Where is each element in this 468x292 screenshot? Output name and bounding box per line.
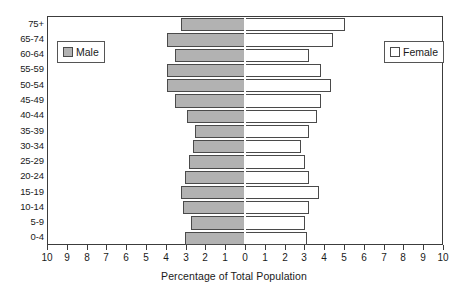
bar-row bbox=[48, 124, 442, 139]
x-axis-tick bbox=[67, 245, 68, 250]
bar-female bbox=[246, 171, 309, 184]
bar-row bbox=[48, 109, 442, 124]
legend-swatch-female-icon bbox=[390, 47, 400, 57]
bar-male bbox=[185, 232, 244, 245]
bar-male bbox=[193, 140, 244, 153]
x-axis-tick-label: 10 bbox=[431, 252, 455, 264]
bar-female bbox=[246, 140, 301, 153]
x-axis-tick bbox=[225, 245, 226, 250]
bar-female bbox=[246, 49, 309, 62]
x-axis-tick bbox=[87, 245, 88, 250]
x-axis-tick bbox=[146, 245, 147, 250]
bar-female bbox=[246, 155, 305, 168]
bar-female bbox=[246, 110, 317, 123]
x-axis-tick bbox=[324, 245, 325, 250]
bar-row bbox=[48, 32, 442, 47]
x-axis-tick bbox=[423, 245, 424, 250]
y-axis-tick-label: 30-34 bbox=[20, 141, 44, 151]
bar-female bbox=[246, 33, 333, 46]
y-axis-tick-label: 65-74 bbox=[20, 34, 44, 44]
x-axis-tick bbox=[364, 245, 365, 250]
bar-male bbox=[191, 216, 244, 229]
bar-row bbox=[48, 17, 442, 32]
y-axis-tick-label: 50-54 bbox=[20, 80, 44, 90]
bar-row bbox=[48, 139, 442, 154]
x-axis-tick bbox=[344, 245, 345, 250]
x-axis-tick bbox=[47, 245, 48, 250]
x-axis-tick bbox=[126, 245, 127, 250]
bar-male bbox=[167, 33, 244, 46]
y-axis-tick-label: 20-24 bbox=[20, 171, 44, 181]
bar-male bbox=[181, 186, 244, 199]
bar-male bbox=[187, 110, 244, 123]
legend-swatch-male-icon bbox=[63, 47, 73, 57]
bar-female bbox=[246, 216, 305, 229]
y-axis-tick-label: 0-4 bbox=[31, 232, 44, 242]
x-axis-tick bbox=[403, 245, 404, 250]
x-axis-tick bbox=[384, 245, 385, 250]
y-axis-tick-label: 75+ bbox=[28, 19, 44, 29]
bar-row bbox=[48, 78, 442, 93]
bar-male bbox=[183, 201, 244, 214]
bar-row bbox=[48, 93, 442, 108]
legend-label-female: Female bbox=[403, 46, 438, 58]
bar-female bbox=[246, 94, 321, 107]
bar-female bbox=[246, 79, 331, 92]
x-axis-tick bbox=[443, 245, 444, 250]
bar-female bbox=[246, 232, 307, 245]
y-axis-tick-label: 15-19 bbox=[20, 187, 44, 197]
bar-male bbox=[175, 94, 244, 107]
legend-label-male: Male bbox=[76, 46, 99, 58]
x-axis-tick bbox=[166, 245, 167, 250]
y-axis-tick-label: 45-49 bbox=[20, 95, 44, 105]
bar-male bbox=[167, 79, 244, 92]
bar-row bbox=[48, 231, 442, 246]
bar-row bbox=[48, 185, 442, 200]
x-axis-tick bbox=[245, 245, 246, 250]
y-axis-tick-label: 25-29 bbox=[20, 156, 44, 166]
legend-male: Male bbox=[57, 41, 105, 63]
bar-male bbox=[195, 125, 245, 138]
y-axis-tick-label: 55-59 bbox=[20, 64, 44, 74]
bar-row bbox=[48, 170, 442, 185]
x-axis-tick bbox=[186, 245, 187, 250]
x-axis-tick bbox=[265, 245, 266, 250]
bar-male bbox=[185, 171, 244, 184]
bar-row bbox=[48, 48, 442, 63]
x-axis-tick bbox=[205, 245, 206, 250]
bar-row bbox=[48, 154, 442, 169]
y-axis-tick-label: 5-9 bbox=[31, 217, 44, 227]
y-axis-tick-label: 60-64 bbox=[20, 49, 44, 59]
x-axis-title: Percentage of Total Population bbox=[0, 270, 468, 282]
x-axis-tick bbox=[304, 245, 305, 250]
bar-row bbox=[48, 215, 442, 230]
bar-female bbox=[246, 125, 309, 138]
bar-male bbox=[181, 18, 244, 31]
y-axis-tick-label: 10-14 bbox=[20, 202, 44, 212]
y-axis-tick-label: 40-44 bbox=[20, 110, 44, 120]
bar-male bbox=[175, 49, 244, 62]
bar-row bbox=[48, 63, 442, 78]
bar-row bbox=[48, 200, 442, 215]
x-axis-tick bbox=[106, 245, 107, 250]
bar-male bbox=[167, 64, 244, 77]
bar-female bbox=[246, 201, 309, 214]
bar-female bbox=[246, 186, 319, 199]
bar-male bbox=[189, 155, 244, 168]
population-pyramid-chart: 0-45-910-1415-1920-2425-2930-3435-3940-4… bbox=[0, 0, 468, 292]
bar-female bbox=[246, 64, 321, 77]
legend-female: Female bbox=[384, 41, 444, 63]
y-axis-tick-label: 35-39 bbox=[20, 126, 44, 136]
bar-female bbox=[246, 18, 345, 31]
x-axis-tick bbox=[285, 245, 286, 250]
